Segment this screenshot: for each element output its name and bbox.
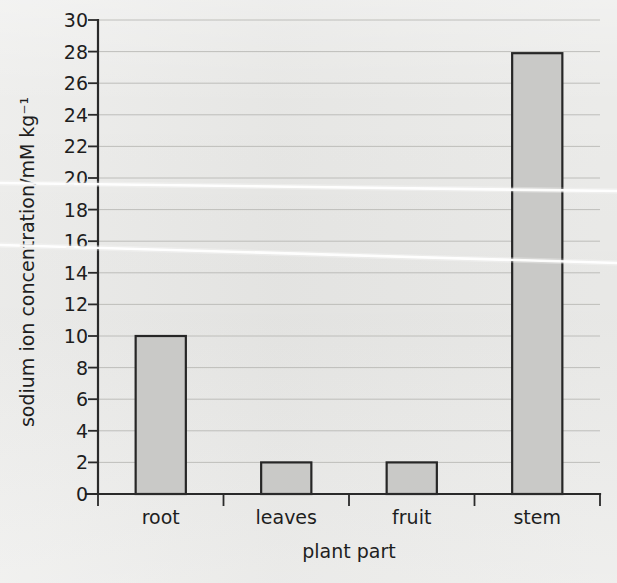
y-axis-tick-label: 24 bbox=[64, 104, 88, 126]
bar bbox=[387, 462, 437, 494]
x-axis-category-label: leaves bbox=[256, 506, 317, 528]
x-axis-category-labels-group: rootleavesfruitstem bbox=[142, 506, 561, 528]
x-axis-category-label: stem bbox=[513, 506, 561, 528]
bar bbox=[512, 53, 562, 494]
y-axis-tick-labels-group: 024681012141618202224262830 bbox=[64, 9, 88, 505]
y-axis-tick-label: 14 bbox=[64, 262, 88, 284]
y-axis-tick-label: 8 bbox=[76, 357, 88, 379]
y-axis-tick-label: 6 bbox=[76, 388, 88, 410]
y-axis-tick-label: 28 bbox=[64, 41, 88, 63]
x-axis-ticks-group bbox=[98, 494, 600, 506]
y-axis-tick-label: 4 bbox=[76, 420, 88, 442]
x-axis-category-label: root bbox=[142, 506, 180, 528]
bars-group bbox=[136, 53, 563, 494]
y-axis-tick-label: 10 bbox=[64, 325, 88, 347]
bar bbox=[261, 462, 311, 494]
y-axis-title: sodium ion concentration/mM kg⁻¹ bbox=[16, 97, 38, 427]
y-axis-tick-label: 0 bbox=[76, 483, 88, 505]
x-axis-category-label: fruit bbox=[392, 506, 431, 528]
y-axis-tick-label: 30 bbox=[64, 9, 88, 31]
bar bbox=[136, 336, 186, 494]
y-axis-tick-label: 2 bbox=[76, 451, 88, 473]
bar-chart: 024681012141618202224262830 rootleavesfr… bbox=[0, 0, 617, 583]
y-axis-tick-label: 22 bbox=[64, 135, 88, 157]
y-axis-tick-label: 12 bbox=[64, 293, 88, 315]
x-axis-title: plant part bbox=[302, 540, 395, 562]
y-axis-tick-label: 18 bbox=[64, 199, 88, 221]
y-axis-tick-label: 26 bbox=[64, 72, 88, 94]
